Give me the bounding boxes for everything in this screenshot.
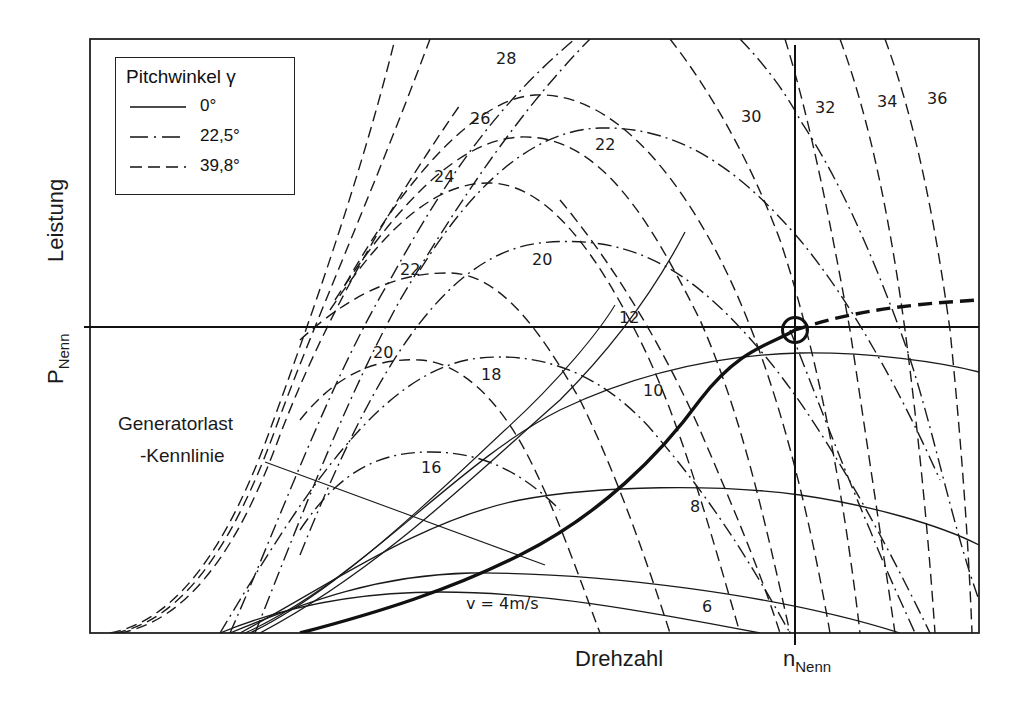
svg-text:30: 30 [741, 107, 761, 126]
svg-text:v = 4m/s: v = 4m/s [466, 594, 539, 613]
svg-text:20: 20 [532, 250, 552, 269]
svg-text:10: 10 [643, 381, 663, 400]
curve-d-32 [785, 39, 895, 633]
curve-d-34 [840, 39, 935, 633]
legend-entry-22-5deg: 22,5° [128, 128, 288, 148]
curve-d-30 [670, 39, 860, 633]
curve-dd-18 [220, 357, 790, 633]
svg-text:34: 34 [877, 92, 897, 111]
legend: Pitchwinkel γ 0° 22,5° 39,8° [115, 57, 295, 195]
svg-text:36: 36 [927, 89, 947, 108]
generator-load-label-line1: Generatorlast [118, 411, 233, 436]
svg-text:18: 18 [481, 365, 501, 384]
pitch-0-curves [220, 232, 979, 633]
dashed-line-icon [128, 160, 188, 174]
svg-text:22: 22 [595, 135, 615, 154]
curve-dd-20 [300, 241, 930, 633]
n-nenn-label: nNenn [783, 646, 831, 672]
legend-entry-39-8deg: 39,8° [128, 158, 288, 178]
svg-text:12: 12 [619, 308, 639, 327]
svg-text:28: 28 [496, 49, 516, 68]
svg-text:16: 16 [421, 458, 441, 477]
svg-text:22: 22 [400, 260, 420, 279]
generator-load-curve-extension [795, 300, 979, 330]
generator-load-curve [300, 330, 795, 633]
svg-text:8: 8 [690, 497, 700, 516]
pitch-22-5-curves [220, 39, 979, 633]
svg-text:6: 6 [702, 597, 712, 616]
curve-d-28 [345, 95, 830, 633]
curve-v8 [240, 488, 979, 633]
generator-load-label-line2: -Kennlinie [140, 443, 225, 468]
dash-dot-line-icon [128, 130, 188, 144]
solid-line-icon [128, 100, 188, 114]
svg-text:20: 20 [373, 343, 393, 362]
svg-text:32: 32 [815, 98, 835, 117]
svg-text:24: 24 [434, 167, 454, 186]
y-axis-label: Leistung [43, 179, 69, 262]
curve-d-26 [335, 137, 790, 633]
p-nenn-label: PNenn [43, 333, 69, 384]
svg-text:26: 26 [470, 109, 490, 128]
x-axis-label: Drehzahl [575, 646, 663, 672]
legend-title: Pitchwinkel γ [126, 66, 236, 88]
legend-entry-0deg: 0° [128, 98, 288, 118]
generator-label-leader [265, 462, 545, 565]
